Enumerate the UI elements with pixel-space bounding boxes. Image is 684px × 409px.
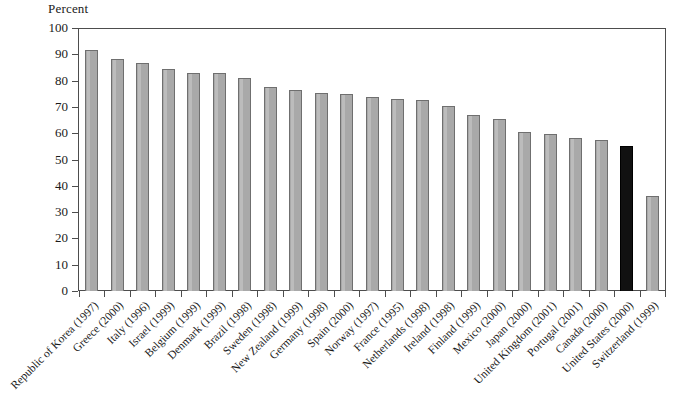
y-tick-label: 20 bbox=[20, 229, 68, 246]
bar bbox=[416, 100, 429, 291]
bar bbox=[569, 138, 582, 291]
y-tick-label: 60 bbox=[20, 124, 68, 141]
y-tick-label: 40 bbox=[20, 177, 68, 194]
bar bbox=[467, 115, 480, 291]
bar-sheen bbox=[444, 107, 447, 291]
y-tick-mark bbox=[72, 212, 78, 213]
y-tick-label: 100 bbox=[20, 19, 68, 36]
bars-layer bbox=[79, 29, 665, 291]
bar bbox=[136, 63, 149, 291]
bar-sheen bbox=[571, 139, 574, 291]
bar-sheen bbox=[546, 135, 549, 291]
bar-chart: Percent 1009080706050403020100 Republic … bbox=[0, 0, 684, 409]
y-tick-label: 10 bbox=[20, 256, 68, 273]
bar bbox=[289, 90, 302, 291]
y-tick-label: 50 bbox=[20, 151, 68, 168]
bar-sheen bbox=[189, 74, 192, 291]
bar bbox=[518, 132, 531, 291]
bar-sheen bbox=[215, 74, 218, 291]
bar-sheen bbox=[291, 91, 294, 291]
x-axis-labels: Republic of Korea (1997)Greece (2000)Ita… bbox=[0, 291, 684, 409]
bar bbox=[315, 93, 328, 291]
bar bbox=[213, 73, 226, 291]
bar-sheen bbox=[138, 64, 141, 291]
y-tick-label: 80 bbox=[20, 72, 68, 89]
bar-sheen bbox=[418, 101, 421, 291]
bar bbox=[442, 106, 455, 291]
bar-sheen bbox=[87, 51, 90, 291]
bar-sheen bbox=[240, 79, 243, 291]
y-tick-mark bbox=[72, 160, 78, 161]
bar-sheen bbox=[495, 120, 498, 291]
y-axis-title: Percent bbox=[48, 1, 88, 16]
y-tick-mark bbox=[72, 81, 78, 82]
bar bbox=[340, 94, 353, 291]
y-tick-mark bbox=[72, 265, 78, 266]
bar-sheen bbox=[597, 141, 600, 291]
bar bbox=[493, 119, 506, 291]
bar bbox=[544, 134, 557, 291]
y-tick-label: 70 bbox=[20, 98, 68, 115]
bar-sheen bbox=[342, 95, 345, 291]
bar-sheen bbox=[368, 98, 371, 291]
bar bbox=[595, 140, 608, 291]
bar-sheen bbox=[317, 94, 320, 291]
y-tick-mark bbox=[72, 238, 78, 239]
y-tick-mark bbox=[72, 186, 78, 187]
bar bbox=[366, 97, 379, 291]
bar-sheen bbox=[469, 116, 472, 291]
bar bbox=[111, 59, 124, 291]
y-tick-mark bbox=[72, 28, 78, 29]
bar bbox=[264, 87, 277, 291]
bar-sheen bbox=[164, 70, 167, 291]
bar-sheen bbox=[113, 60, 116, 291]
bar bbox=[85, 50, 98, 291]
bar bbox=[162, 69, 175, 291]
bar-sheen bbox=[648, 197, 651, 291]
bar bbox=[187, 73, 200, 291]
bar-sheen bbox=[520, 133, 523, 291]
y-tick-label: 90 bbox=[20, 45, 68, 62]
y-tick-mark bbox=[72, 133, 78, 134]
bar-sheen bbox=[266, 88, 269, 291]
bar bbox=[646, 196, 659, 291]
bar bbox=[620, 146, 633, 291]
y-tick-mark bbox=[72, 107, 78, 108]
y-tick-mark bbox=[72, 54, 78, 55]
bar bbox=[391, 99, 404, 291]
y-tick-label: 30 bbox=[20, 203, 68, 220]
bar-sheen bbox=[393, 100, 396, 291]
bar bbox=[238, 78, 251, 291]
